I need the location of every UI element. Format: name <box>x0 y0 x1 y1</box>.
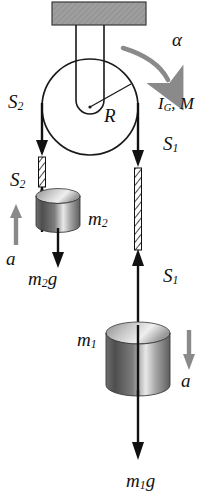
mass-cylinder-m1 <box>106 322 170 396</box>
label-tension-S1-bottom: S1 <box>163 266 178 287</box>
label-m1-sub: 1 <box>91 338 97 351</box>
label-weight-m2g: m2g <box>28 269 57 290</box>
angular-acceleration-arrow <box>123 48 168 80</box>
label-mass-M: , M <box>171 94 194 113</box>
label-tension-S2-top: S2 <box>8 92 23 113</box>
label-mass-m2: m2 <box>88 209 108 230</box>
label-m2g-g: g <box>48 268 58 289</box>
acceleration-arrow-right <box>183 330 195 370</box>
diagram-vector-layer <box>0 0 207 503</box>
label-S2-bottom-symbol: S <box>10 169 20 190</box>
weight-arrow-m2 <box>52 228 64 268</box>
label-tension-S2-bottom: S2 <box>10 170 25 191</box>
label-m1g-g: g <box>146 470 156 491</box>
mass-cylinder-m2 <box>36 189 80 233</box>
label-tension-S1-top: S1 <box>163 134 178 155</box>
ceiling-support <box>52 2 146 25</box>
label-S2-bottom-sub: 2 <box>20 178 26 191</box>
label-m1g-symbol: m <box>126 470 140 491</box>
label-m2-symbol: m <box>88 208 102 229</box>
label-alpha: α <box>172 30 182 49</box>
label-S1-bottom-sub: 1 <box>173 274 179 287</box>
label-mass-m1: m1 <box>77 330 97 351</box>
weight-arrow-m1 <box>132 390 144 460</box>
label-S1-bottom-symbol: S <box>163 265 173 286</box>
label-S1-top-symbol: S <box>163 133 173 154</box>
pulley-disc <box>42 59 138 155</box>
label-S1-top-sub: 1 <box>173 142 179 155</box>
label-S2-top-symbol: S <box>8 91 18 112</box>
label-acceleration-right: a <box>181 371 191 390</box>
label-m2-sub: 2 <box>102 217 108 230</box>
label-acceleration-left: a <box>6 249 16 268</box>
label-inertia-mass: IG, M <box>158 95 194 113</box>
acceleration-arrow-left <box>10 204 22 245</box>
label-weight-m1g: m1g <box>126 471 155 492</box>
label-m1-symbol: m <box>77 329 91 350</box>
figure-canvas: α R IG, M S2 S2 S1 S1 m2 m1 m2g m1g a a <box>0 0 207 503</box>
label-S2-top-sub: 2 <box>18 100 24 113</box>
rope-right-hatched <box>132 103 144 332</box>
label-radius: R <box>104 106 116 125</box>
pulley-hanger-bracket <box>76 25 104 114</box>
label-m2g-symbol: m <box>28 268 42 289</box>
